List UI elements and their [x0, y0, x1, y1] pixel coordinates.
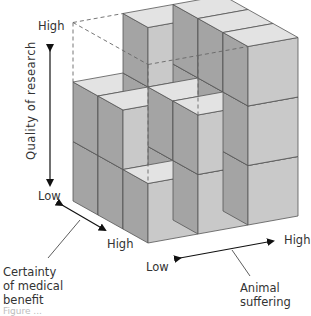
certainty-high-label: High: [107, 237, 133, 251]
quality-axis-label: Quality of research: [24, 41, 38, 160]
suffering-axis-arrow: [180, 241, 273, 258]
figure-caption: Figure ...: [3, 306, 42, 316]
cube-stack: [73, 0, 298, 243]
cube-front-face: [248, 157, 298, 226]
cube-front-face: [248, 38, 298, 107]
suffering-high-label: High: [284, 233, 310, 247]
quality-low-label: Low: [38, 189, 61, 203]
quality-high-label: High: [38, 19, 64, 33]
cube-front-face: [248, 97, 298, 166]
dashed-edge: [73, 14, 123, 23]
certainty-leader-line: [48, 220, 80, 258]
suffering-axis-label: Animal suffering: [240, 281, 291, 309]
suffering-low-label: Low: [146, 260, 169, 274]
certainty-axis-label: Certainty of medical benefit: [3, 265, 63, 307]
suffering-leader-line: [232, 250, 250, 276]
